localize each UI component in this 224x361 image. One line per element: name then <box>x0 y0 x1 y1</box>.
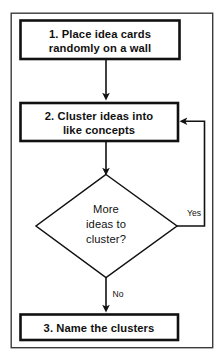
decision-line-1: More <box>93 203 119 215</box>
decision-line-3: cluster? <box>86 233 126 245</box>
edge-label-no: No <box>113 289 124 299</box>
edge-label-yes: Yes <box>187 208 201 218</box>
step-1-line-2: randomly on a wall <box>49 42 152 54</box>
step-3-line-1: 3. Name the clusters <box>44 322 155 334</box>
step-1-line-1: 1. Place idea cards <box>49 28 151 40</box>
flowchart-svg: 1. Place idea cards randomly on a wall 2… <box>0 0 224 361</box>
flowchart-canvas: 1. Place idea cards randomly on a wall 2… <box>0 0 224 361</box>
decision-line-2: ideas to <box>86 218 126 230</box>
step-2-line-1: 2. Cluster ideas into <box>45 110 153 122</box>
step-2-line-2: like concepts <box>63 124 135 136</box>
